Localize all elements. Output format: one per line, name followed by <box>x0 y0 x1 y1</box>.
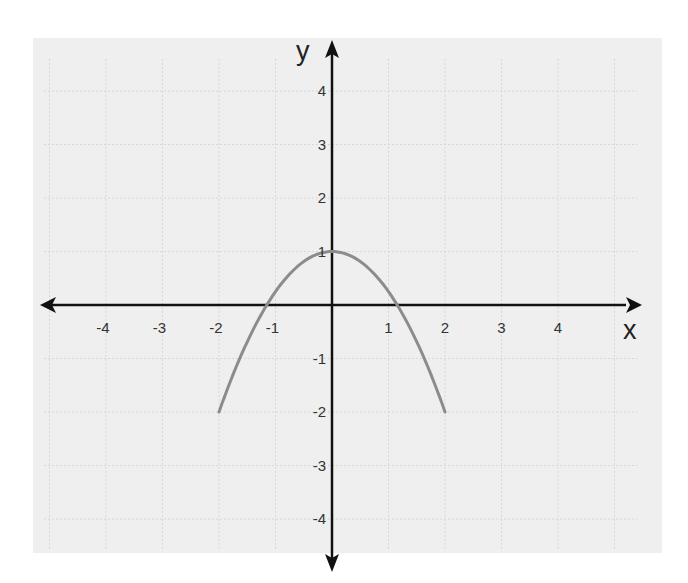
x-tick-label: -3 <box>153 319 166 336</box>
y-tick-label: -3 <box>313 457 326 474</box>
x-tick-labels: -4-3-2-11234 <box>96 319 562 336</box>
y-tick-label: -4 <box>313 510 326 527</box>
x-axis-label: x <box>623 315 637 345</box>
x-tick-label: 1 <box>384 319 392 336</box>
y-tick-label: -1 <box>313 350 326 367</box>
coordinate-plane: -4-3-2-11234 4321-1-2-3-4 x y <box>0 0 688 583</box>
x-tick-label: -4 <box>96 319 109 336</box>
y-tick-label: 1 <box>318 243 326 260</box>
x-tick-label: -2 <box>209 319 222 336</box>
y-tick-label: 2 <box>318 189 326 206</box>
y-tick-label: 4 <box>318 82 326 99</box>
x-tick-label: -1 <box>266 319 279 336</box>
axes <box>40 40 642 572</box>
x-axis-right-arrow-icon <box>626 297 642 313</box>
x-tick-label: 3 <box>497 319 505 336</box>
y-tick-label: -2 <box>313 403 326 420</box>
x-tick-label: 4 <box>554 319 562 336</box>
y-tick-label: 3 <box>318 136 326 153</box>
y-axis-label: y <box>296 36 310 66</box>
x-tick-label: 2 <box>441 319 449 336</box>
